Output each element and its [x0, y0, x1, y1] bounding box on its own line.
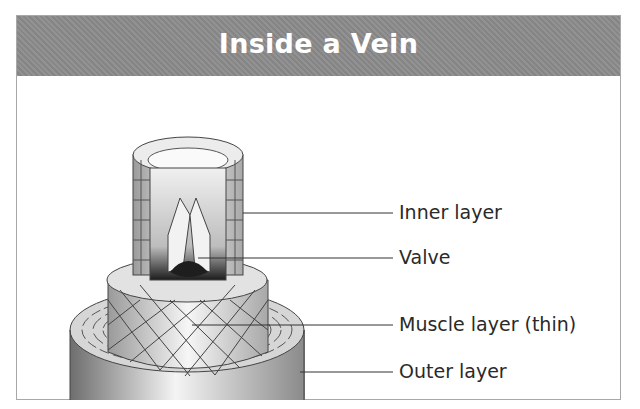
label-muscle-layer: Muscle layer (thin): [399, 313, 576, 335]
vein-illustration: [0, 0, 640, 409]
label-outer-layer: Outer layer: [399, 360, 507, 382]
label-valve: Valve: [399, 246, 450, 268]
label-inner-layer: Inner layer: [399, 201, 502, 223]
